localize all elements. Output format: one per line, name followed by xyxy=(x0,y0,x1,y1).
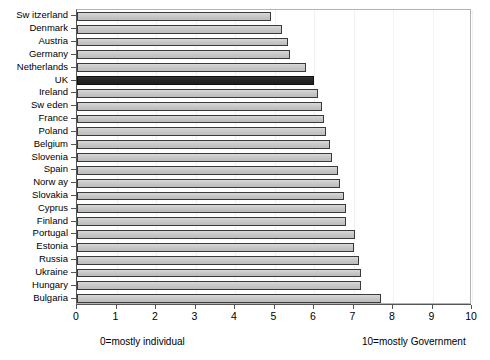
bar-row xyxy=(77,140,470,149)
bar-poland xyxy=(77,127,326,136)
y-axis-label-bulgaria: Bulgaria xyxy=(33,293,68,303)
bar-row xyxy=(77,269,470,278)
bar-row xyxy=(77,153,470,162)
x-axis-tick-label-7: 7 xyxy=(350,310,356,323)
y-axis-label-slovenia: Slovenia xyxy=(32,152,68,162)
x-axis-tick-label-3: 3 xyxy=(192,310,198,323)
y-axis-label-cyprus: Cyprus xyxy=(38,203,68,213)
bar-netherlands xyxy=(77,63,306,72)
y-axis-label-austria: Austria xyxy=(38,36,68,46)
x-axis-tick-labels: 012345678910 xyxy=(76,310,471,324)
bar-row xyxy=(77,281,470,290)
y-axis-label-denmark: Denmark xyxy=(29,23,68,33)
x-axis-tick-5 xyxy=(274,305,275,309)
y-axis-label-portugal: Portugal xyxy=(33,228,68,238)
gridline-10 xyxy=(472,10,473,303)
bar-belgium xyxy=(77,140,330,149)
bar-ireland xyxy=(77,89,318,98)
bar-row xyxy=(77,243,470,252)
x-axis-tick-label-0: 0 xyxy=(73,310,79,323)
y-axis-label-ukraine: Ukraine xyxy=(35,267,68,277)
bar-cyprus xyxy=(77,204,346,213)
bar-estonia xyxy=(77,243,354,252)
bar-bulgaria xyxy=(77,294,381,303)
bar-row xyxy=(77,179,470,188)
x-axis-tick-label-10: 10 xyxy=(465,310,477,323)
y-axis-label-sweden: Sw eden xyxy=(31,100,68,110)
x-axis-tick-label-5: 5 xyxy=(271,310,277,323)
bar-france xyxy=(77,115,324,124)
bar-row xyxy=(77,127,470,136)
bar-slovenia xyxy=(77,153,332,162)
y-axis-label-norway: Norw ay xyxy=(33,177,68,187)
bar-portugal xyxy=(77,230,355,239)
y-axis-label-netherlands: Netherlands xyxy=(17,62,68,72)
bar-row xyxy=(77,89,470,98)
bar-row xyxy=(77,50,470,59)
bar-denmark xyxy=(77,25,282,34)
y-axis-label-france: France xyxy=(38,113,68,123)
bar-row xyxy=(77,115,470,124)
right-anchor-note: 10=mostly Government xyxy=(362,335,466,348)
x-axis-tick-label-1: 1 xyxy=(113,310,119,323)
bar-spain xyxy=(77,166,338,175)
y-axis-label-slovakia: Slovakia xyxy=(32,190,68,200)
bar-row xyxy=(77,166,470,175)
bar-row xyxy=(77,230,470,239)
bar-chart: Sw itzerlandDenmarkAustriaGermanyNetherl… xyxy=(0,0,490,360)
bar-row xyxy=(77,63,470,72)
bar-row xyxy=(77,12,470,21)
bar-row xyxy=(77,204,470,213)
bar-uk xyxy=(77,76,314,85)
bar-ukraine xyxy=(77,269,361,278)
y-axis-category-labels: Sw itzerlandDenmarkAustriaGermanyNetherl… xyxy=(0,9,72,304)
bar-norway xyxy=(77,179,340,188)
bar-row xyxy=(77,38,470,47)
bar-row xyxy=(77,256,470,265)
bar-austria xyxy=(77,38,288,47)
x-axis-tick-label-6: 6 xyxy=(310,310,316,323)
y-axis-label-ireland: Ireland xyxy=(39,87,68,97)
x-axis-tick-7 xyxy=(353,305,354,309)
bar-russia xyxy=(77,256,359,265)
x-axis-tick-2 xyxy=(155,305,156,309)
x-axis-tick-1 xyxy=(116,305,117,309)
bar-switzerland xyxy=(77,12,271,21)
y-axis-label-belgium: Belgium xyxy=(34,139,68,149)
x-axis-tick-label-2: 2 xyxy=(152,310,158,323)
y-axis-label-finland: Finland xyxy=(37,216,68,226)
bar-row xyxy=(77,192,470,201)
x-axis-tick-label-9: 9 xyxy=(429,310,435,323)
y-axis-label-hungary: Hungary xyxy=(32,280,68,290)
bar-row xyxy=(77,217,470,226)
x-axis-tick-10 xyxy=(471,305,472,309)
bar-row xyxy=(77,76,470,85)
bar-row xyxy=(77,294,470,303)
bar-row xyxy=(77,102,470,111)
y-axis-label-estonia: Estonia xyxy=(36,241,68,251)
bar-slovakia xyxy=(77,192,344,201)
x-axis-tick-label-4: 4 xyxy=(231,310,237,323)
x-axis-tick-4 xyxy=(234,305,235,309)
bar-hungary xyxy=(77,281,361,290)
plot-area xyxy=(76,9,471,304)
x-axis-tick-6 xyxy=(313,305,314,309)
y-axis-label-spain: Spain xyxy=(44,164,68,174)
y-axis-label-switzerland: Sw itzerland xyxy=(16,10,68,20)
x-axis-tick-label-8: 8 xyxy=(389,310,395,323)
x-axis-tick-0 xyxy=(76,305,77,309)
x-axis-tick-3 xyxy=(195,305,196,309)
x-axis-tick-9 xyxy=(432,305,433,309)
y-axis-label-russia: Russia xyxy=(39,254,68,264)
bar-finland xyxy=(77,217,346,226)
bar-germany xyxy=(77,50,290,59)
bar-sweden xyxy=(77,102,322,111)
left-anchor-note: 0=mostly individual xyxy=(100,335,185,348)
y-axis-label-germany: Germany xyxy=(29,49,68,59)
bars-layer xyxy=(77,10,470,303)
y-axis-label-poland: Poland xyxy=(38,126,68,136)
x-axis-tick-8 xyxy=(392,305,393,309)
bar-row xyxy=(77,25,470,34)
y-axis-label-uk: UK xyxy=(55,75,68,85)
